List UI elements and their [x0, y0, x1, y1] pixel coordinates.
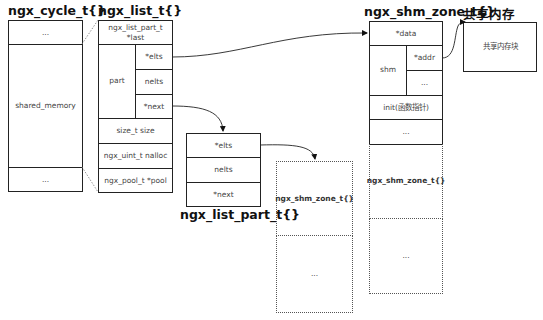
cycle-row-ellipsis-bottom: ...	[8, 167, 83, 192]
list-row-nalloc: ngx_uint_t nalloc	[98, 143, 173, 169]
list-title: ngx_list_t{}	[98, 3, 173, 18]
list-row-pool: ngx_pool_t *pool	[98, 168, 173, 193]
shm-zone-row-ellipsis: ...	[369, 119, 443, 145]
cycle-row-shared-memory: shared_memory	[8, 44, 83, 168]
list-part-row-elts: *elts	[186, 133, 261, 158]
shm-zone-row-init: init(函数指针)	[369, 95, 443, 120]
shm-zone-shm-addr: *addr	[406, 45, 443, 71]
middle-array-row-shm-zone: ngx_shm_zone_t{}	[276, 161, 353, 236]
shm-zone-shm-ellipsis: ...	[406, 70, 443, 96]
arrow-next-to-list-part	[172, 106, 223, 131]
arrow-part-elts-to-array	[260, 145, 315, 159]
list-part-row-nelts: nelts	[186, 157, 261, 183]
shared-memory-block: 共享内存块	[463, 22, 537, 72]
shm-array-row-shm-zone: ngx_shm_zone_t{}	[369, 144, 443, 219]
middle-array-row-ellipsis: ...	[276, 235, 353, 313]
list-part-row-next: *next	[186, 182, 261, 207]
list-part-nelts: nelts	[135, 69, 173, 95]
arrow-addr-to-shared-memory	[442, 22, 465, 58]
cycle-row-ellipsis-top: ...	[8, 20, 83, 45]
cycle-title: ngx_cycle_t{}	[8, 3, 83, 18]
shm-zone-title: ngx_shm_zone_t{}	[364, 4, 448, 19]
shared-memory-title: 共享内存	[463, 4, 523, 23]
list-part-elts: *elts	[135, 44, 173, 70]
arrow-elts-to-shm-zone	[172, 33, 367, 57]
list-row-size: size_t size	[98, 118, 173, 144]
list-part-next: *next	[135, 94, 173, 119]
list-row-last: ngx_list_part_t *last	[98, 20, 173, 45]
list-part-title: ngx_list_part_t{}	[180, 207, 266, 222]
shm-zone-shm-label: shm	[369, 45, 407, 96]
list-part-label: part	[98, 44, 136, 119]
expand-line-bottom	[82, 167, 98, 192]
shm-zone-row-data: *data	[369, 21, 443, 46]
shm-array-row-ellipsis: ...	[369, 218, 443, 294]
expand-line-top	[82, 20, 98, 44]
